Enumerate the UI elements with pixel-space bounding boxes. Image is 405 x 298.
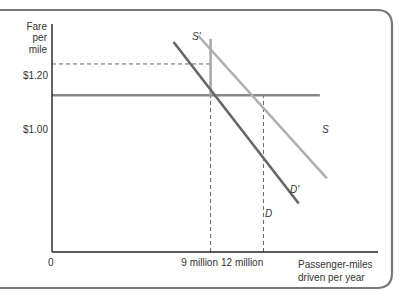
curve-d [174,42,299,203]
frame-border [0,10,392,288]
x-axis-label-line-1: Passenger-miles [298,259,372,270]
x-axis-label-line-2: driven per year [298,272,365,283]
curve-label-d: D [265,208,272,219]
origin-label: 0 [48,257,54,268]
curve-label-d-prime: D' [290,184,300,195]
curve-label-s: S [322,124,329,135]
y-tick-label-1-20: $1.20 [23,70,48,81]
y-axis-label-line-2: per [33,32,48,43]
y-axis-label-line-1: Fare [26,21,47,32]
chart-svg: Fare per mile $1.20 $1.00 0 9 million 12… [0,0,405,298]
x-tick-label-9-million: 9 million [181,257,218,268]
y-axis-label-line-3: mile [29,44,48,55]
curve-label-s-prime: S' [192,31,202,42]
x-tick-label-12-million: 12 million [221,257,263,268]
y-tick-label-1-00: $1.00 [23,124,48,135]
